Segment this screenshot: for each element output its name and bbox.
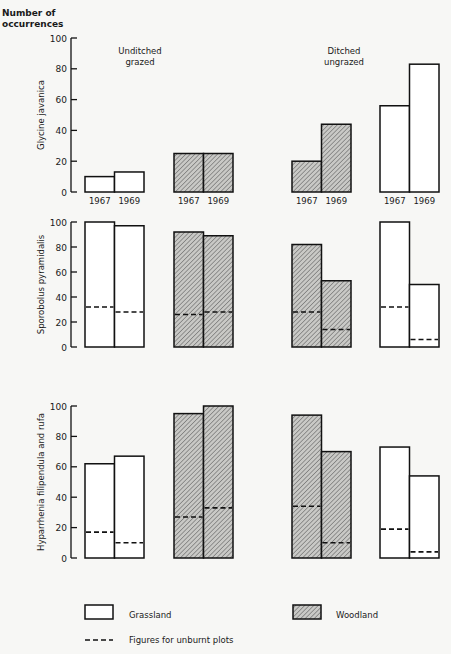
bar-grassland-1967 (85, 464, 115, 558)
legend-unburnt-label: Figures for unburnt plots (129, 635, 234, 645)
bar-grassland-1967 (85, 177, 115, 192)
treatment-label: Unditched (118, 46, 161, 56)
year-label: 1967 (296, 196, 318, 206)
bar-grassland-1969 (115, 172, 145, 192)
bar-grassland-1969 (410, 285, 440, 348)
y-tick-label: 20 (56, 157, 68, 167)
y-tick-label: 60 (56, 268, 68, 278)
y-tick-label: 60 (56, 462, 68, 472)
y-tick-label: 40 (56, 493, 68, 503)
bar-woodland-1967 (174, 232, 204, 347)
bar-grassland-1969 (410, 476, 440, 558)
bar-grassland-1967 (85, 222, 115, 347)
y-tick-label: 40 (56, 126, 68, 136)
year-label: 1969 (118, 196, 140, 206)
group-labels: UnditchedgrazedDitchedungrazed (118, 46, 364, 67)
year-label: 1967 (384, 196, 406, 206)
y-tick-label: 100 (50, 218, 67, 228)
panel-2: 020406080100Sporobolus pyramidalis (36, 218, 439, 353)
bar-woodland-1969 (204, 406, 234, 558)
year-label: 1967 (178, 196, 200, 206)
legend-grassland-swatch (85, 605, 113, 619)
bar-woodland-1969 (204, 236, 234, 347)
bar-woodland-1969 (322, 281, 352, 347)
bar-grassland-1969 (115, 226, 145, 347)
bar-woodland-1967 (174, 414, 204, 558)
y-tick-label: 20 (56, 523, 68, 533)
y-header-line-1: Number of (2, 8, 56, 18)
y-tick-label: 100 (50, 34, 67, 44)
y-tick-label: 80 (56, 64, 68, 74)
species-label: Glycine javanica (36, 80, 46, 150)
y-tick-label: 0 (61, 188, 67, 198)
treatment-label: Ditched (328, 46, 361, 56)
y-tick-label: 0 (61, 554, 67, 564)
y-tick-label: 0 (61, 343, 67, 353)
legend-woodland-swatch (293, 605, 321, 619)
y-tick-label: 80 (56, 243, 68, 253)
bar-woodland-1969 (322, 124, 352, 192)
species-label: Hyparrhenia filipendula and rufa (36, 413, 46, 551)
bar-grassland-1967 (380, 106, 410, 192)
bar-grassland-1969 (410, 64, 440, 192)
legend: Grassland Woodland Figures for unburnt p… (85, 605, 378, 645)
chart: Number of occurrences 020406080100Glycin… (0, 0, 451, 654)
bar-woodland-1967 (292, 161, 322, 192)
y-tick-label: 60 (56, 95, 68, 105)
bar-grassland-1967 (380, 222, 410, 347)
bar-woodland-1967 (292, 245, 322, 348)
treatment-label: ungrazed (324, 57, 364, 67)
y-tick-label: 20 (56, 318, 68, 328)
y-tick-label: 80 (56, 432, 68, 442)
treatment-label: grazed (125, 57, 154, 67)
y-tick-label: 100 (50, 402, 67, 412)
bar-woodland-1967 (292, 415, 322, 558)
panel-1: 020406080100Glycine javanica196719691967… (36, 34, 439, 207)
year-label: 1969 (413, 196, 435, 206)
panels: 020406080100Glycine javanica196719691967… (36, 34, 439, 564)
year-label: 1969 (207, 196, 229, 206)
y-tick-label: 40 (56, 293, 68, 303)
y-header-line-2: occurrences (2, 19, 63, 29)
bar-woodland-1967 (174, 154, 204, 193)
legend-grassland-label: Grassland (129, 610, 172, 620)
panel-3: 020406080100Hyparrhenia filipendula and … (36, 402, 439, 564)
year-label: 1967 (89, 196, 111, 206)
bar-grassland-1967 (380, 447, 410, 558)
bar-woodland-1969 (204, 154, 234, 193)
year-label: 1969 (325, 196, 347, 206)
species-label: Sporobolus pyramidalis (36, 234, 46, 334)
legend-woodland-label: Woodland (336, 610, 378, 620)
